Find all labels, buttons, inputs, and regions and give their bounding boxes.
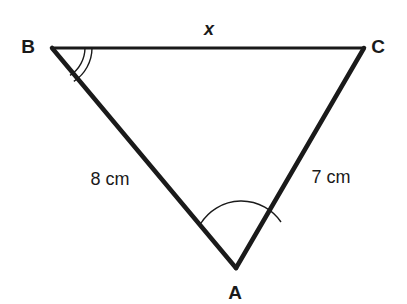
vertex-label-c: C	[371, 36, 385, 57]
side-label-ba: 8 cm	[90, 169, 129, 189]
triangle-figure: B C A x 8 cm 7 cm	[0, 0, 407, 304]
side-label-ca: 7 cm	[311, 167, 350, 187]
diagram-canvas: B C A x 8 cm 7 cm	[0, 0, 407, 304]
side-ca-line	[236, 48, 364, 268]
vertex-label-b: B	[21, 36, 35, 57]
side-label-bc: x	[203, 19, 215, 39]
side-ba-line	[52, 48, 236, 268]
vertex-label-a: A	[228, 282, 242, 303]
